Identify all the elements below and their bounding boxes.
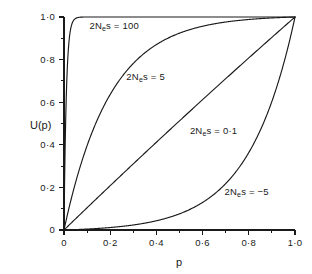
curve-0	[64, 17, 295, 230]
curve-labels-group: 2Nes = 1002Nes = 52Nes = 0·12Nes = −5	[89, 20, 268, 198]
y-tick-label: 0·6	[40, 97, 55, 108]
y-tick-label: 0	[49, 224, 55, 235]
x-tick-label: 0	[61, 237, 67, 248]
tick-labels-group: 00·20·40·60·81·000·20·40·60·81·0	[40, 11, 302, 248]
x-tick-label: 0·2	[103, 237, 118, 248]
x-tick-label: 0·8	[241, 237, 256, 248]
curve-label-2: 2Nes = 0·1	[190, 125, 237, 137]
y-tick-label: 0·4	[40, 139, 55, 150]
curves-group	[64, 17, 295, 230]
x-tick-label: 1·0	[288, 237, 303, 248]
x-tick-label: 0·6	[195, 237, 210, 248]
x-tick-label: 0·4	[149, 237, 164, 248]
y-tick-label: 0·2	[40, 182, 55, 193]
curve-label-1: 2Nes = 5	[126, 71, 165, 83]
axes-group	[64, 17, 295, 230]
curve-2	[64, 17, 295, 230]
y-axis-title: U(p)	[30, 119, 51, 131]
figure-container: 00·20·40·60·81·000·20·40·60·81·0 U(p) p …	[0, 0, 312, 274]
curve-label-3: 2Nes = −5	[225, 186, 269, 198]
curve-3	[64, 17, 295, 230]
curve-label-0: 2Nes = 100	[89, 20, 138, 32]
chart-canvas: 00·20·40·60·81·000·20·40·60·81·0 U(p) p …	[0, 0, 312, 274]
x-axis-title: p	[176, 256, 182, 268]
y-tick-label: 0·8	[40, 54, 55, 65]
curve-1	[64, 17, 295, 230]
y-tick-label: 1·0	[40, 11, 55, 22]
